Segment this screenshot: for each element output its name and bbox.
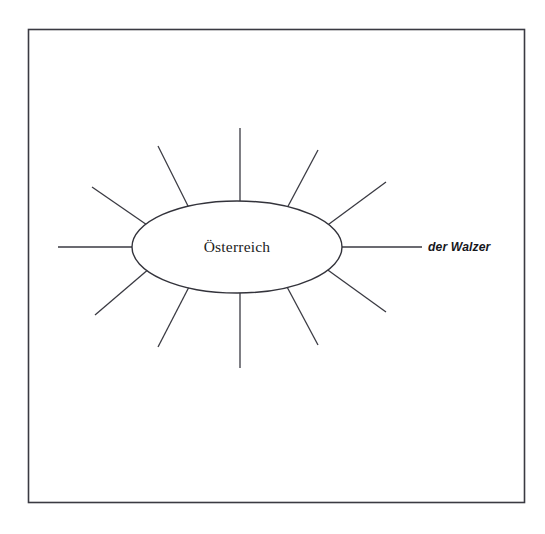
branch-label-der-walzer: der Walzer [428, 240, 492, 254]
worksheet-canvas: Österreich der Walzer [0, 0, 545, 534]
word-web-diagram: Österreich der Walzer [0, 0, 545, 534]
center-topic-label: Österreich [204, 238, 271, 255]
